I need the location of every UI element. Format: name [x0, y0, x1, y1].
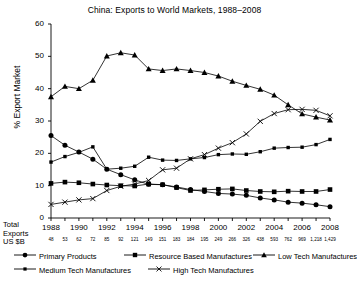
- legend-label: High Tech Manufactures: [173, 266, 254, 275]
- y-tick-label: 40: [26, 84, 44, 93]
- legend-item-resource-based-manufactures[interactable]: Resource Based Manufactures: [124, 250, 252, 262]
- legend-row-2: Medium Tech Manufactures High Tech Manuf…: [0, 264, 349, 278]
- x-cross-icon: [148, 264, 170, 276]
- series-primary-products: [49, 133, 333, 209]
- legend-item-low-tech-manufactures[interactable]: Low Tech Manufactures: [253, 250, 357, 262]
- legend-item-primary-products[interactable]: Primary Products: [14, 250, 97, 262]
- y-tick-label: 50: [26, 51, 44, 60]
- total-exports-line3: US $B: [3, 238, 28, 247]
- legend-item-medium-tech-manufactures[interactable]: Medium Tech Manufactures: [14, 264, 131, 276]
- y-tick-label: 20: [26, 148, 44, 157]
- y-tick-label: 10: [26, 181, 44, 190]
- y-tick-label: 60: [26, 19, 44, 28]
- chart-legend: Primary Products Resource Based Manufact…: [0, 250, 349, 278]
- legend-label: Primary Products: [39, 252, 97, 261]
- legend-row-1: Primary Products Resource Based Manufact…: [0, 250, 349, 264]
- x-tick-label: 2008: [313, 223, 347, 232]
- filled-triangle-icon: [253, 250, 275, 262]
- legend-label: Resource Based Manufactures: [149, 252, 252, 261]
- filled-square-icon: [124, 250, 146, 262]
- legend-item-high-tech-manufactures[interactable]: High Tech Manufactures: [148, 264, 254, 276]
- filled-small-square-icon: [14, 264, 36, 276]
- total-exports-axis-title: Total Exports US $B: [3, 221, 28, 247]
- legend-label: Medium Tech Manufactures: [39, 266, 131, 275]
- series-medium-tech-manufactures: [49, 138, 331, 171]
- y-tick-label: 30: [26, 116, 44, 125]
- total-exports-value: 1,429: [318, 237, 342, 242]
- legend-label: Low Tech Manufactures: [278, 252, 357, 261]
- series-resource-based-manufactures: [49, 180, 333, 194]
- y-tick-label: 0: [26, 213, 44, 222]
- filled-circle-icon: [14, 250, 36, 262]
